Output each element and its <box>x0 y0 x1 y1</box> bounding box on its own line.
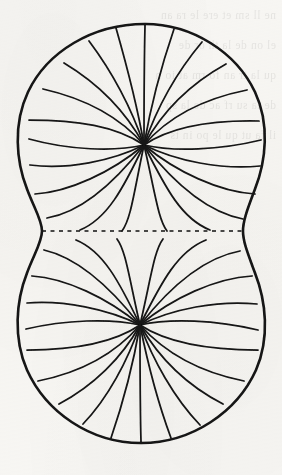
figure-container: ne ll sm et ere le ra anel on de la th o… <box>0 0 282 475</box>
dumbbell-outline <box>18 24 265 443</box>
dumbbell-field-line-diagram <box>0 0 282 475</box>
